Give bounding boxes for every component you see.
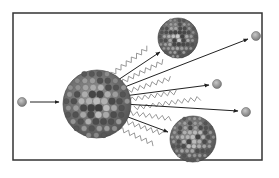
neutron-3 bbox=[242, 108, 251, 117]
fragment-bottom bbox=[170, 116, 216, 162]
neutron-1 bbox=[252, 32, 261, 41]
gamma-ray-wave bbox=[117, 125, 153, 146]
neutron-2 bbox=[213, 80, 222, 89]
arrow-to-neutron-3 bbox=[124, 104, 238, 111]
particles bbox=[18, 18, 261, 162]
gamma-ray-wave bbox=[126, 90, 177, 102]
fission-diagram-canvas bbox=[0, 0, 279, 178]
incoming-neutron bbox=[18, 98, 27, 107]
gamma-ray-wave bbox=[111, 46, 147, 74]
diagram-frame bbox=[13, 13, 262, 160]
parent-nucleus bbox=[63, 70, 131, 138]
fission-diagram bbox=[0, 0, 279, 178]
fragment-top bbox=[158, 18, 198, 58]
gamma-ray-wave bbox=[124, 110, 171, 121]
